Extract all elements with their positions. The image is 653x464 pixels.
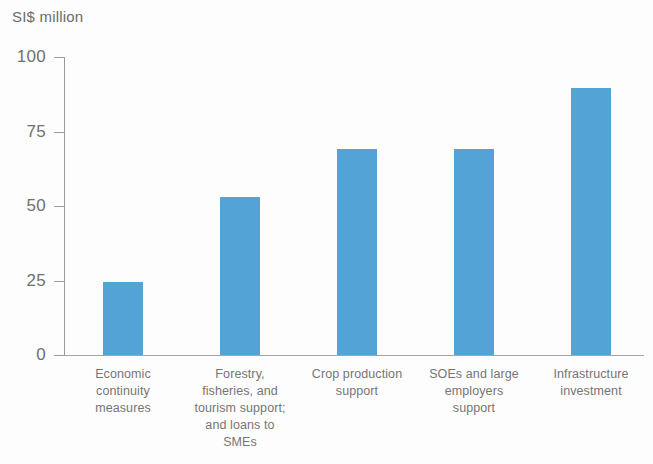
x-axis-category-label-line: support xyxy=(418,400,530,417)
x-axis-category-label-line: investment xyxy=(535,383,647,400)
x-axis-category-label-line: Infrastructure xyxy=(535,366,647,383)
bar xyxy=(337,149,377,355)
x-axis-category-label-line: Crop production xyxy=(301,366,413,383)
x-axis-category-label-line: Forestry, xyxy=(184,366,296,383)
x-axis-line xyxy=(64,355,644,356)
x-axis-category-label-line: SOEs and large xyxy=(418,366,530,383)
bar xyxy=(454,149,494,355)
x-axis-category-label-line: tourism support; xyxy=(184,400,296,417)
y-tick-mark xyxy=(54,355,64,356)
y-axis-title: SI$ million xyxy=(12,8,83,25)
y-tick-label: 25 xyxy=(0,272,46,289)
x-axis-category-label: Crop productionsupport xyxy=(301,366,413,400)
bar xyxy=(103,282,143,355)
y-tick-mark xyxy=(54,206,64,207)
x-axis-category-label-line: continuity xyxy=(67,383,179,400)
x-axis-category-label: Economiccontinuitymeasures xyxy=(67,366,179,417)
x-axis-category-label-line: SMEs xyxy=(184,434,296,451)
x-axis-category-label-line: employers xyxy=(418,383,530,400)
x-axis-category-label-line: Economic xyxy=(67,366,179,383)
y-tick-mark xyxy=(54,57,64,58)
x-axis-category-label-line: support xyxy=(301,383,413,400)
y-tick-mark xyxy=(54,132,64,133)
y-tick-mark xyxy=(54,281,64,282)
bar-chart: SI$ million 0255075100 Economiccontinuit… xyxy=(0,0,653,464)
x-axis-category-label: Forestry,fisheries, andtourism support;a… xyxy=(184,366,296,451)
plot-area xyxy=(64,57,648,355)
y-tick-label: 100 xyxy=(0,48,46,65)
y-tick-label: 0 xyxy=(0,346,46,363)
bar xyxy=(220,197,260,355)
bar xyxy=(571,88,611,355)
x-axis-category-label: Infrastructureinvestment xyxy=(535,366,647,400)
x-axis-category-label-line: measures xyxy=(67,400,179,417)
x-axis-category-label-line: and loans to xyxy=(184,417,296,434)
y-tick-label: 75 xyxy=(0,123,46,140)
x-axis-category-label: SOEs and largeemployerssupport xyxy=(418,366,530,417)
y-tick-label: 50 xyxy=(0,197,46,214)
x-axis-category-label-line: fisheries, and xyxy=(184,383,296,400)
